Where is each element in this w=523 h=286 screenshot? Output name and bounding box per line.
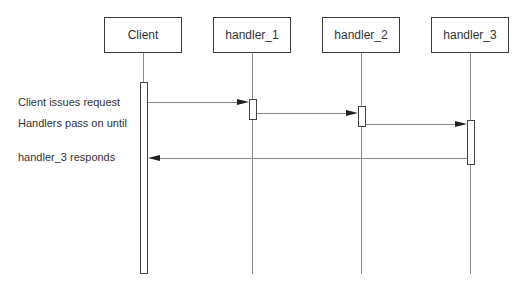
participant-handler-2: handler_2 bbox=[322, 17, 400, 53]
message-handler-2-to-handler-3 bbox=[366, 124, 456, 125]
note-handler-3-responds: handler_3 responds bbox=[18, 151, 115, 164]
activation-handler-2 bbox=[358, 106, 366, 127]
activation-handler-3 bbox=[467, 120, 475, 165]
participant-label: Client bbox=[128, 28, 159, 42]
participant-label: handler_2 bbox=[334, 28, 387, 42]
participant-client: Client bbox=[104, 17, 182, 53]
message-handler-3-to-client bbox=[160, 158, 467, 159]
lifeline-handler-1 bbox=[252, 53, 253, 274]
note-client-issues-request: Client issues request bbox=[18, 96, 120, 109]
arrowhead-icon bbox=[237, 99, 249, 105]
activation-client bbox=[140, 82, 148, 274]
arrowhead-icon bbox=[148, 155, 160, 161]
arrowhead-icon bbox=[455, 121, 467, 127]
participant-handler-1: handler_1 bbox=[213, 17, 291, 53]
activation-handler-1 bbox=[249, 99, 257, 120]
message-client-to-handler-1 bbox=[148, 102, 238, 103]
note-handlers-pass-on: Handlers pass on until bbox=[18, 117, 127, 130]
lifeline-handler-2 bbox=[361, 53, 362, 274]
participant-label: handler_3 bbox=[443, 28, 496, 42]
arrowhead-icon bbox=[346, 110, 358, 116]
sequence-diagram: Client handler_1 handler_2 handler_3 Cli… bbox=[0, 0, 523, 286]
participant-handler-3: handler_3 bbox=[431, 17, 509, 53]
message-handler-1-to-handler-2 bbox=[257, 113, 347, 114]
participant-label: handler_1 bbox=[225, 28, 278, 42]
